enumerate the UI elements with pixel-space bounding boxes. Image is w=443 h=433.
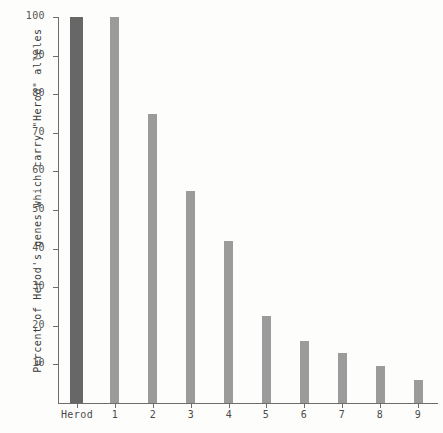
x-tick-label-8: 8 — [377, 409, 383, 420]
y-tick-label: 100 — [26, 10, 45, 21]
y-tick-label: 20 — [32, 319, 45, 330]
x-tick-1 — [115, 403, 116, 408]
x-tick-7 — [342, 403, 343, 408]
bars-group — [58, 17, 437, 403]
bar-5 — [262, 316, 271, 403]
x-tick-label-herod: Herod — [61, 409, 93, 420]
bar-1 — [110, 17, 119, 403]
bar-7 — [338, 353, 347, 403]
x-tick-label-7: 7 — [339, 409, 345, 420]
x-tick-herod — [77, 403, 78, 408]
x-tick-label-4: 4 — [226, 409, 232, 420]
y-tick-label: 30 — [32, 280, 45, 291]
y-tick-label: 80 — [32, 87, 45, 98]
y-tick-label: 50 — [32, 203, 45, 214]
y-tick-label: 40 — [32, 242, 45, 253]
x-tick-label-3: 3 — [188, 409, 194, 420]
x-tick-8 — [380, 403, 381, 408]
bar-4 — [224, 241, 233, 403]
plot-area: 102030405060708090100 Herod123456789 — [58, 17, 437, 403]
y-tick-label: 90 — [32, 49, 45, 60]
x-tick-label-9: 9 — [415, 409, 421, 420]
x-tick-9 — [418, 403, 419, 408]
x-tick-label-1: 1 — [112, 409, 118, 420]
y-tick-label: 60 — [32, 164, 45, 175]
bar-herod — [70, 17, 83, 403]
x-tick-2 — [153, 403, 154, 408]
x-tick-label-5: 5 — [263, 409, 269, 420]
x-tick-label-2: 2 — [150, 409, 156, 420]
x-tick-label-6: 6 — [301, 409, 307, 420]
bar-2 — [148, 114, 157, 404]
x-tick-4 — [229, 403, 230, 408]
bar-8 — [376, 366, 385, 403]
y-axis-title: Percent of Herod's genes which carry "He… — [32, 1, 43, 401]
x-tick-3 — [191, 403, 192, 408]
bar-6 — [300, 341, 309, 403]
bar-9 — [414, 380, 423, 403]
x-tick-6 — [304, 403, 305, 408]
y-tick-label: 10 — [32, 357, 45, 368]
bar-chart-figure: Percent of Herod's genes which carry "He… — [0, 0, 443, 433]
y-tick-label: 70 — [32, 126, 45, 137]
x-tick-5 — [266, 403, 267, 408]
bar-3 — [186, 191, 195, 403]
